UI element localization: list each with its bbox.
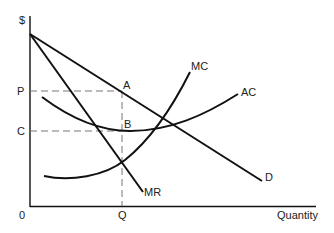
point-a-label: A — [123, 79, 131, 91]
monopoly-diagram: $ P C 0 Q Quantity A B D MR MC AC — [0, 0, 334, 233]
marginal-revenue-label: MR — [144, 186, 161, 198]
y-axis-label: $ — [19, 14, 25, 26]
marginal-revenue-curve — [30, 34, 143, 192]
demand-label: D — [265, 171, 273, 183]
cost-label: C — [17, 125, 25, 137]
origin-label: 0 — [19, 209, 25, 221]
demand-curve — [30, 34, 262, 181]
price-label: P — [17, 85, 24, 97]
point-b-label: B — [124, 118, 131, 130]
average-cost-curve — [42, 94, 238, 131]
marginal-cost-label: MC — [191, 60, 208, 72]
quantity-label: Q — [118, 209, 127, 221]
x-axis-label: Quantity — [277, 209, 318, 221]
average-cost-label: AC — [241, 86, 256, 98]
